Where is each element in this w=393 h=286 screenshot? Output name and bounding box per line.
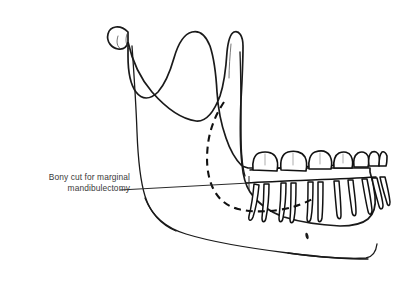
- tooth-molar-2-root-distal: [290, 183, 296, 223]
- tooth-incisor-lateral-crown: [379, 152, 387, 166]
- mandible-illustration: [0, 0, 393, 286]
- tooth-molar-2-crown: [281, 151, 307, 171]
- tooth-premolar-1-crown: [354, 152, 369, 167]
- annotation-label: Bony cut for marginal mandibulectomy: [6, 172, 130, 194]
- figure-root: Bony cut for marginal mandibulectomy: [0, 0, 393, 286]
- tooth-canine-crown: [369, 152, 380, 166]
- tooth-molar-1-root-distal: [318, 182, 323, 222]
- mental-foramen-icon: [305, 233, 309, 240]
- inferior-border: [288, 244, 377, 258]
- annotation-leader-line: [120, 183, 249, 190]
